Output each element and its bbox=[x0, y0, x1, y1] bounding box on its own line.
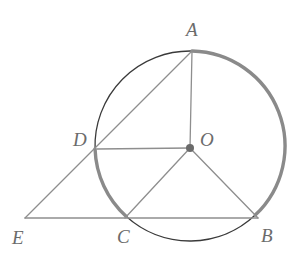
geometry-figure: A B C D O E bbox=[0, 0, 300, 259]
point-label-O: O bbox=[200, 130, 214, 149]
point-label-C: C bbox=[117, 227, 130, 246]
point-label-D: D bbox=[73, 130, 87, 149]
arc-C-to-B bbox=[126, 215, 255, 241]
point-label-A: A bbox=[186, 20, 198, 39]
segment-A-O bbox=[190, 51, 192, 148]
segment-D-O bbox=[97, 148, 190, 149]
point-label-B: B bbox=[261, 226, 273, 245]
center-point-dot bbox=[186, 144, 194, 152]
point-label-E: E bbox=[12, 228, 24, 247]
arc-D-to-C bbox=[95, 149, 126, 216]
line-segments bbox=[25, 51, 258, 218]
geometry-canvas bbox=[0, 0, 300, 259]
segment-O-B bbox=[190, 148, 258, 218]
segment-O-C bbox=[125, 148, 190, 218]
